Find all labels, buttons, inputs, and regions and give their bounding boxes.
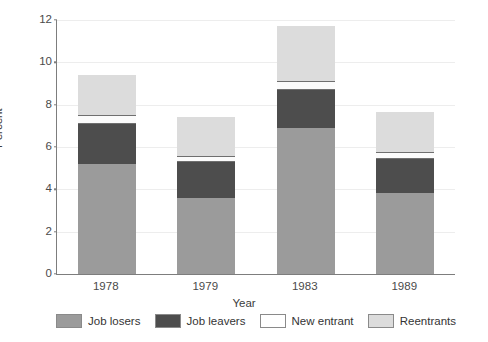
legend-label-2: New entrant xyxy=(292,315,354,327)
y-tick-label-2: 2 xyxy=(0,226,52,238)
segment-job-losers-1979 xyxy=(177,198,235,274)
segment-job-losers-1978 xyxy=(78,164,136,274)
chart-legend: Job losersJob leaversNew entrantReentran… xyxy=(56,314,456,328)
x-tick-label-1978: 1978 xyxy=(61,280,151,292)
legend-label-1: Job leavers xyxy=(187,315,246,327)
swatch-new-entrant xyxy=(260,314,286,328)
segment-job-losers-1983 xyxy=(277,128,335,274)
segment-new-entrant-1983 xyxy=(277,81,335,89)
segment-job-leavers-1979 xyxy=(177,162,235,198)
segment-job-leavers-1983 xyxy=(277,90,335,128)
segment-reentrants-1989 xyxy=(376,112,434,152)
y-tick-label-4: 4 xyxy=(0,184,52,196)
segment-new-entrant-1978 xyxy=(78,115,136,123)
segment-reentrants-1979 xyxy=(177,117,235,155)
legend-label-0: Job losers xyxy=(88,315,140,327)
y-tick-label-10: 10 xyxy=(0,57,52,69)
legend-item-new-entrant: New entrant xyxy=(260,314,354,328)
legend-item-job-losers: Job losers xyxy=(56,314,140,328)
segment-reentrants-1978 xyxy=(78,75,136,115)
swatch-reentrants xyxy=(368,314,394,328)
y-tick-label-12: 12 xyxy=(0,14,52,26)
bar-1983 xyxy=(277,26,335,274)
bar-1978 xyxy=(78,75,136,274)
y-tick-label-0: 0 xyxy=(0,268,52,280)
y-tick-label-8: 8 xyxy=(0,99,52,111)
legend-item-job-leavers: Job leavers xyxy=(155,314,246,328)
legend-item-reentrants: Reentrants xyxy=(368,314,456,328)
segment-reentrants-1983 xyxy=(277,26,335,81)
legend-label-3: Reentrants xyxy=(400,315,456,327)
x-tick-label-1979: 1979 xyxy=(160,280,250,292)
stacked-bar-chart: Percent 121086420 1978197919831989 Year … xyxy=(0,0,488,342)
segment-job-leavers-1978 xyxy=(78,124,136,164)
segment-job-leavers-1989 xyxy=(376,159,434,193)
gridline-12 xyxy=(57,20,455,21)
swatch-job-losers xyxy=(56,314,82,328)
x-tick-label-1983: 1983 xyxy=(260,280,350,292)
segment-job-losers-1989 xyxy=(376,193,434,274)
y-tick-label-6: 6 xyxy=(0,141,52,153)
clipped-title-text xyxy=(0,0,300,4)
swatch-job-leavers xyxy=(155,314,181,328)
bar-1989 xyxy=(376,112,434,274)
x-axis-title: Year xyxy=(0,297,488,309)
gridline-10 xyxy=(57,62,455,63)
bar-1979 xyxy=(177,117,235,274)
plot-area xyxy=(56,20,455,275)
x-tick-label-1989: 1989 xyxy=(359,280,449,292)
